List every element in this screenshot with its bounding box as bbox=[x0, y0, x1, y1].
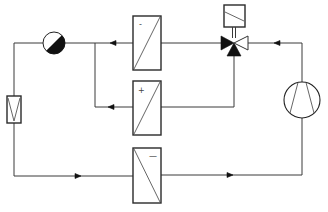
arrow-right-icon bbox=[227, 173, 233, 178]
sign-minus: - bbox=[139, 20, 142, 29]
arrow-left-icon bbox=[274, 41, 280, 46]
pipe-bottom-compressor bbox=[161, 118, 302, 175]
sign-plus: + bbox=[138, 86, 145, 95]
arrow-right-icon bbox=[75, 174, 81, 179]
heat-exchanger-middle: + bbox=[133, 81, 161, 135]
pipe-branch-middle bbox=[95, 43, 133, 107]
flow-arrows bbox=[75, 41, 280, 179]
filter-drier-icon bbox=[7, 96, 21, 123]
arrow-left-icon bbox=[110, 41, 116, 46]
valve-actuator-icon bbox=[224, 5, 245, 27]
pipe-left-upper bbox=[14, 43, 43, 96]
sign-dash: — bbox=[149, 152, 157, 161]
heat-exchanger-bottom: — bbox=[133, 148, 161, 203]
pipe-middle-valve bbox=[161, 55, 234, 107]
compressor-icon bbox=[284, 82, 320, 118]
sight-glass-icon bbox=[43, 32, 65, 54]
pipe-valve-compressor bbox=[248, 43, 302, 82]
refrigeration-diagram: - + — bbox=[0, 0, 328, 212]
heat-exchanger-top: - bbox=[133, 16, 161, 70]
three-way-valve-icon bbox=[221, 5, 248, 56]
arrow-left-icon bbox=[108, 105, 114, 110]
pipe-left-lower bbox=[14, 123, 133, 176]
